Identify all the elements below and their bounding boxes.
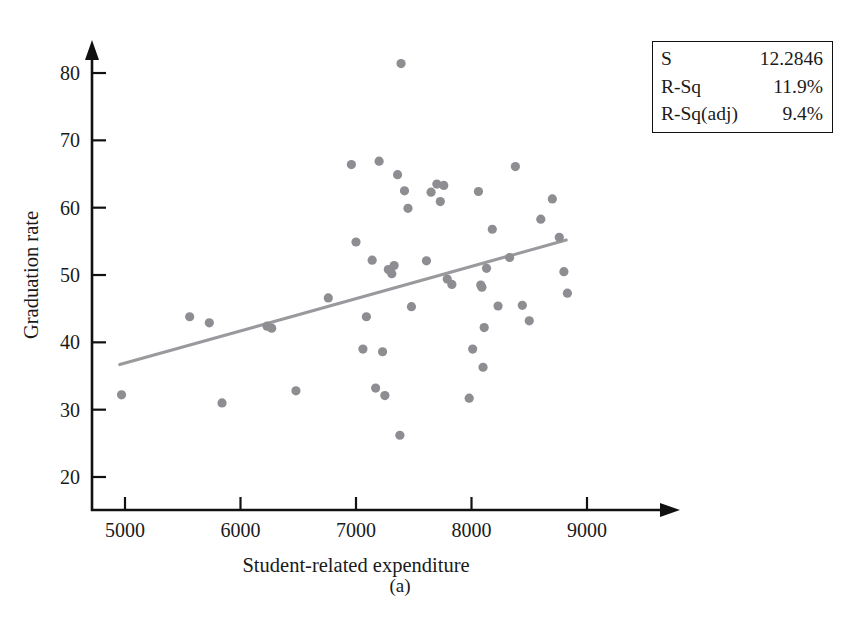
scatter-point bbox=[371, 384, 380, 393]
scatter-point bbox=[380, 391, 389, 400]
x-tick-label: 6000 bbox=[221, 519, 261, 541]
scatter-point bbox=[505, 253, 514, 262]
scatter-point bbox=[117, 390, 126, 399]
stats-row: R-Sq 11.9% bbox=[653, 73, 832, 101]
scatter-point bbox=[403, 204, 412, 213]
stats-label-rsq-adj: R-Sq(adj) bbox=[661, 100, 738, 128]
y-tick-label: 70 bbox=[60, 129, 80, 151]
scatter-point bbox=[407, 302, 416, 311]
scatter-point bbox=[493, 301, 502, 310]
scatter-point bbox=[324, 293, 333, 302]
stats-label-s: S bbox=[661, 45, 672, 73]
scatter-point bbox=[555, 233, 564, 242]
scatter-point bbox=[536, 215, 545, 224]
scatter-point bbox=[390, 261, 399, 270]
stats-row: S 12.2846 bbox=[653, 45, 832, 73]
y-tick-label: 50 bbox=[60, 264, 80, 286]
x-tick-label: 5000 bbox=[105, 519, 145, 541]
scatter-point bbox=[482, 264, 491, 273]
scatter-point bbox=[347, 160, 356, 169]
scatter-point bbox=[488, 225, 497, 234]
scatter-point bbox=[267, 324, 276, 333]
stats-label-rsq: R-Sq bbox=[661, 73, 701, 101]
scatter-point bbox=[447, 280, 456, 289]
x-tick-label: 9000 bbox=[567, 519, 607, 541]
x-axis-title: Student-related expenditure bbox=[242, 554, 469, 577]
figure-caption: (a) bbox=[389, 575, 410, 597]
scatter-point bbox=[474, 187, 483, 196]
x-tick-label: 8000 bbox=[452, 519, 492, 541]
y-axis-title: Graduation rate bbox=[20, 211, 42, 339]
scatter-point bbox=[525, 316, 534, 325]
scatter-point bbox=[185, 312, 194, 321]
scatter-point bbox=[422, 256, 431, 265]
x-axis-arrow-icon bbox=[660, 503, 680, 517]
stats-value-rsq-adj: 9.4% bbox=[782, 100, 823, 128]
axis-lines bbox=[92, 54, 666, 510]
y-axis-arrow-icon bbox=[85, 40, 99, 60]
scatter-point bbox=[563, 289, 572, 298]
scatter-point bbox=[477, 283, 486, 292]
scatter-point bbox=[518, 301, 527, 310]
scatter-point bbox=[400, 186, 409, 195]
scatter-point bbox=[396, 59, 405, 68]
scatter-point bbox=[217, 398, 226, 407]
scatter-point bbox=[559, 267, 568, 276]
scatter-point bbox=[291, 386, 300, 395]
scatter-point bbox=[393, 170, 402, 179]
y-tick-label: 40 bbox=[60, 331, 80, 353]
y-tick-label: 30 bbox=[60, 399, 80, 421]
data-points bbox=[117, 59, 572, 440]
scatter-point bbox=[439, 181, 448, 190]
stats-row: R-Sq(adj) 9.4% bbox=[653, 100, 832, 128]
axis-labels: 5000600070008000900020304050607080Studen… bbox=[20, 62, 607, 597]
scatter-point bbox=[468, 344, 477, 353]
scatter-point bbox=[387, 269, 396, 278]
y-tick-label: 60 bbox=[60, 197, 80, 219]
y-tick-label: 80 bbox=[60, 62, 80, 84]
scatter-point bbox=[548, 194, 557, 203]
y-tick-label: 20 bbox=[60, 466, 80, 488]
scatter-point bbox=[465, 394, 474, 403]
scatter-point bbox=[375, 157, 384, 166]
scatter-point bbox=[478, 363, 487, 372]
stats-value-rsq: 11.9% bbox=[773, 73, 823, 101]
scatter-point bbox=[511, 162, 520, 171]
figure-container: 5000600070008000900020304050607080Studen… bbox=[0, 0, 861, 627]
scatter-point bbox=[395, 431, 404, 440]
scatter-point bbox=[205, 318, 214, 327]
scatter-point bbox=[436, 197, 445, 206]
scatter-point bbox=[480, 323, 489, 332]
x-tick-label: 7000 bbox=[336, 519, 376, 541]
scatter-point bbox=[362, 312, 371, 321]
scatter-point bbox=[368, 256, 377, 265]
statistics-legend-box: S 12.2846 R-Sq 11.9% R-Sq(adj) 9.4% bbox=[652, 41, 833, 133]
scatter-point bbox=[426, 188, 435, 197]
axes bbox=[85, 40, 680, 517]
scatter-point bbox=[378, 347, 387, 356]
scatter-point bbox=[351, 237, 360, 246]
stats-value-s: 12.2846 bbox=[760, 45, 823, 73]
scatter-point bbox=[358, 344, 367, 353]
